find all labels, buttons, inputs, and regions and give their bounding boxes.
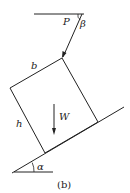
weight-arrowhead [52, 128, 56, 135]
incline-angle-label: α [37, 161, 44, 172]
height-label: h [16, 118, 22, 129]
force-p-arrowhead [62, 51, 67, 58]
figure-caption: (b) [57, 179, 71, 190]
force-angle-label: β [79, 18, 86, 29]
force-label: P [62, 16, 70, 27]
alpha-angle-arc [32, 163, 34, 172]
weight-label: W [59, 111, 70, 122]
block-on-incline-diagram: P β b h W α (b) [0, 0, 130, 193]
width-label: b [31, 60, 37, 71]
